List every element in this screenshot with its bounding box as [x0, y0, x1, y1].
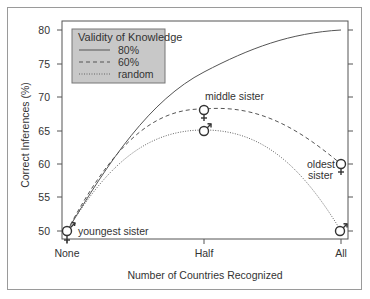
- y-axis-right-ticks: [348, 30, 353, 231]
- series-random-line: [67, 130, 341, 231]
- y-tick-label: 50: [38, 225, 50, 237]
- legend-item-random: random: [118, 68, 154, 80]
- legend-item-80: 80%: [118, 44, 139, 56]
- legend-title: Validity of Knowledge: [78, 31, 182, 43]
- y-axis: [57, 30, 62, 231]
- legend: Validity of Knowledge 80% 60% random: [72, 29, 182, 83]
- x-tick-label: None: [54, 247, 79, 259]
- anno-oldest-sister-line2: sister: [308, 169, 334, 181]
- y-tick-label: 55: [38, 191, 50, 203]
- y-tick-label: 60: [38, 158, 50, 170]
- male-symbol-icon: [336, 224, 348, 236]
- x-axis-label: Number of Countries Recognized: [127, 269, 282, 281]
- legend-item-60: 60%: [118, 56, 139, 68]
- y-tick-label: 75: [38, 58, 50, 70]
- y-tick-label: 80: [38, 24, 50, 36]
- anno-youngest-sister: youngest sister: [78, 225, 149, 237]
- anno-middle-sister: middle sister: [205, 90, 264, 102]
- y-axis-label: Correct Inferences (%): [19, 82, 31, 188]
- chart: 80 75 70 65 60 55 50 None Half All Numbe…: [0, 0, 370, 299]
- y-tick-label: 65: [38, 125, 50, 137]
- x-tick-label: Half: [195, 247, 214, 259]
- female-symbol-icon: [200, 106, 209, 122]
- x-tick-label: All: [335, 247, 347, 259]
- female-symbol-icon: [337, 160, 346, 176]
- youngest-sister-symbol-icon: [63, 223, 76, 244]
- y-tick-label: 70: [38, 91, 50, 103]
- x-axis: [67, 239, 341, 244]
- male-symbol-icon: [200, 124, 212, 136]
